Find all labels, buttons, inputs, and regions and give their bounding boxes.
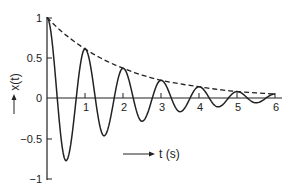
envelope-curve xyxy=(47,18,275,94)
x-tick-4: 4 xyxy=(197,101,203,113)
x-tick-1: 1 xyxy=(83,101,89,113)
y-tick-neg1: −1 xyxy=(29,173,42,185)
y-tick-1: 1 xyxy=(36,12,42,24)
right-arrow-icon xyxy=(149,152,155,157)
x-axis-label: t (s) xyxy=(159,147,180,161)
damped-oscillation-chart: 1 0.5 0 −0.5 −1 1 2 3 4 5 6 x(t) t (s) xyxy=(0,0,289,191)
signal-curve xyxy=(47,18,275,161)
x-tick-3: 3 xyxy=(159,101,165,113)
y-tick-0.5: 0.5 xyxy=(27,52,42,64)
y-tick-neg0.5: −0.5 xyxy=(20,133,42,145)
y-tick-labels: 1 0.5 0 −0.5 −1 xyxy=(20,12,42,185)
x-tick-5: 5 xyxy=(235,101,241,113)
y-tick-0: 0 xyxy=(36,92,42,104)
x-tick-2: 2 xyxy=(121,101,127,113)
x-axis-label-group: t (s) xyxy=(123,147,180,161)
y-axis-label: x(t) xyxy=(8,73,22,90)
up-arrow-icon xyxy=(12,94,17,100)
y-axis-label-group: x(t) xyxy=(8,73,22,114)
x-tick-6: 6 xyxy=(273,101,279,113)
